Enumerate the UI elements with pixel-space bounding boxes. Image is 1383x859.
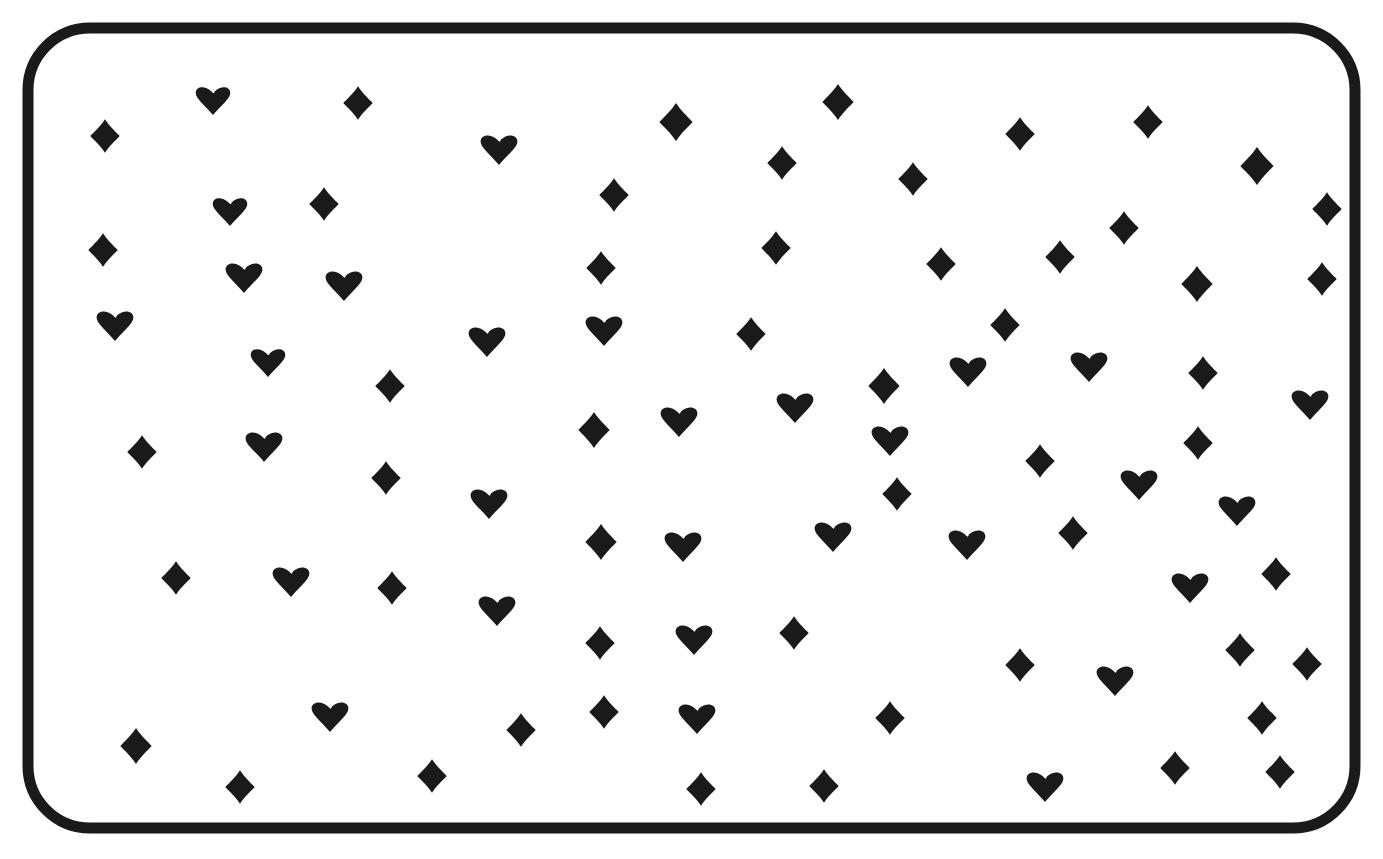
puzzle-canvas — [0, 0, 1383, 859]
puzzle-page — [0, 0, 1383, 859]
